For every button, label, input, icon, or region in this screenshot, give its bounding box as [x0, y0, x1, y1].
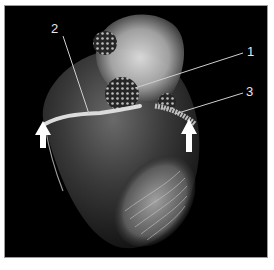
vessel-section-top	[93, 31, 117, 55]
annotation-label-2: 2	[51, 22, 58, 35]
annotation-label-1: 1	[247, 45, 254, 58]
heart-rendering	[5, 6, 268, 258]
medical-image-frame: 2 1 3	[4, 5, 268, 258]
annotation-label-3: 3	[246, 85, 253, 98]
